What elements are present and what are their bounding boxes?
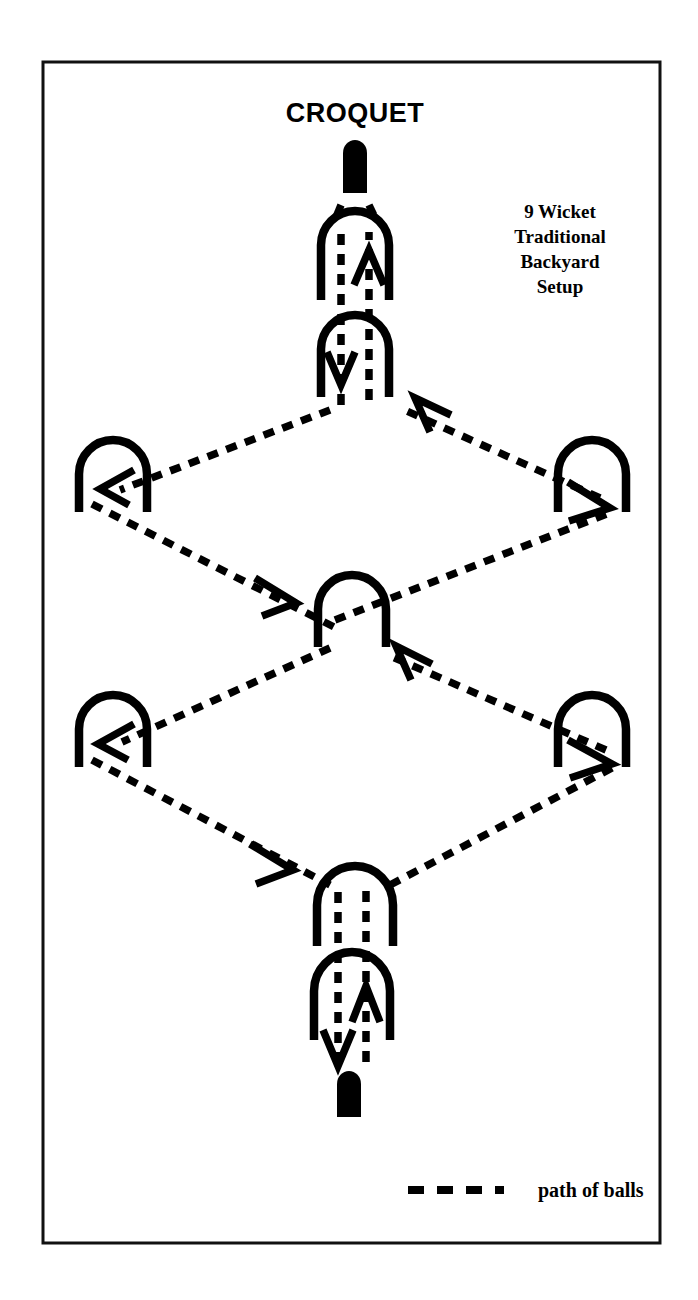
diagram-title: CROQUET <box>286 98 425 128</box>
arrow-downright-bottom-wicket <box>250 844 293 884</box>
legend-label: path of balls <box>538 1179 644 1202</box>
arrow-left-upper-left-wicket <box>100 470 134 505</box>
caption-line-1: 9 Wicket <box>524 201 596 222</box>
wicket-8 <box>317 866 393 946</box>
caption-line-4: Setup <box>537 276 583 297</box>
ball-path-left-to-center <box>92 504 340 630</box>
wicket-3 <box>79 440 147 512</box>
croquet-court-diagram: CROQUET 9 Wicket Traditional Backyard Se… <box>0 0 698 1300</box>
top-stake <box>343 140 367 193</box>
ball-path-center-to-upper-right <box>335 512 612 620</box>
wicket-1 <box>321 211 389 300</box>
bottom-stake <box>337 1071 361 1117</box>
caption-line-3: Backyard <box>520 251 600 272</box>
ball-path-lower-left-to-bottom <box>92 760 330 885</box>
ball-path-upper-left-diagonal <box>120 410 330 490</box>
wicket-5 <box>318 575 386 647</box>
croquet-diagram-root: CROQUET 9 Wicket Traditional Backyard Se… <box>0 0 698 1300</box>
wicket-9 <box>314 952 390 1040</box>
ball-path-center-to-lower-left <box>122 648 330 742</box>
caption-line-2: Traditional <box>514 226 606 247</box>
ball-path-bottom-to-lower-right <box>390 768 612 885</box>
